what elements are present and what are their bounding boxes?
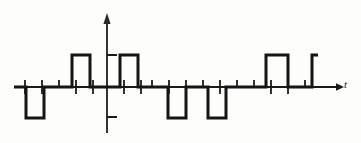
amplitude-axis-group (103, 13, 117, 133)
time-axis-arrow-icon (336, 83, 344, 91)
waveform-plot-canvas (0, 0, 361, 143)
waveform-figure: t (0, 0, 361, 143)
time-axis-label: t (344, 79, 347, 90)
amplitude-axis-arrow-icon (103, 13, 110, 24)
